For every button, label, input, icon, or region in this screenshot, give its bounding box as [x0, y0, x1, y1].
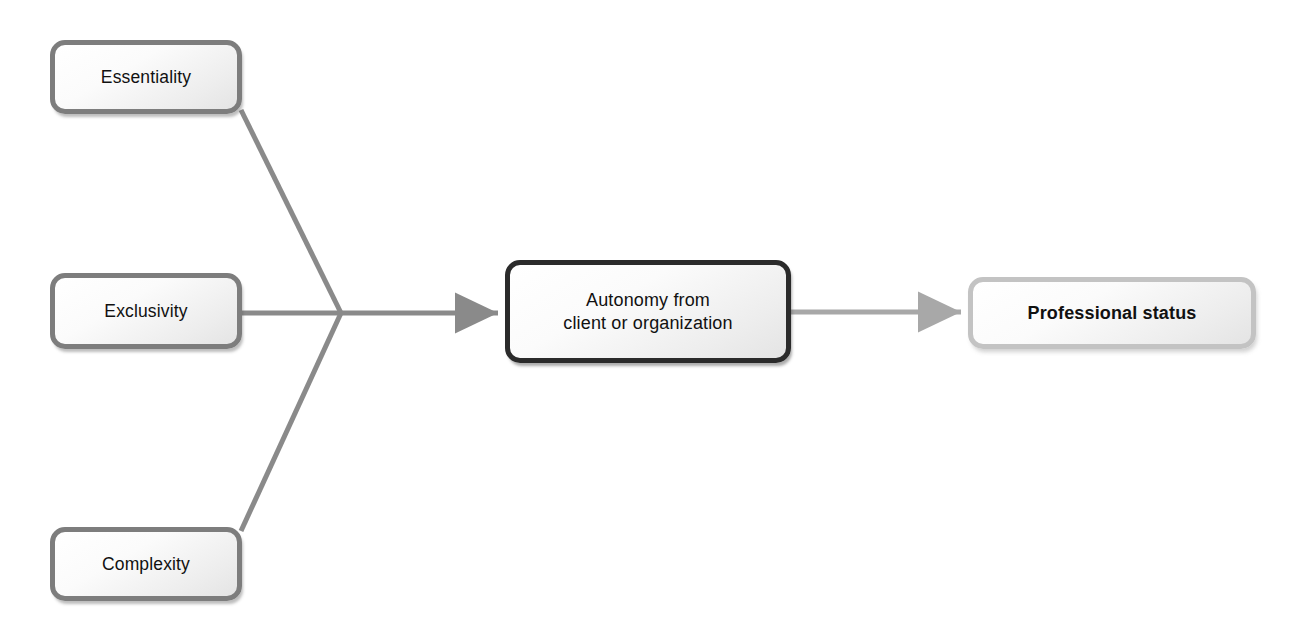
node-professional-status[interactable]: Professional status — [968, 277, 1256, 349]
node-professional-status-label: Professional status — [1020, 302, 1205, 324]
node-autonomy[interactable]: Autonomy from client or organization — [505, 260, 791, 363]
node-complexity[interactable]: Complexity — [50, 527, 242, 601]
node-essentiality-label: Essentiality — [93, 67, 199, 88]
node-exclusivity[interactable]: Exclusivity — [50, 273, 242, 349]
diagram-canvas: Essentiality Exclusivity Complexity Auto… — [0, 0, 1291, 632]
connector-essentiality-to-junction — [241, 110, 341, 313]
node-essentiality[interactable]: Essentiality — [50, 40, 242, 114]
node-complexity-label: Complexity — [94, 554, 198, 575]
connector-complexity-to-junction — [241, 313, 341, 531]
node-exclusivity-label: Exclusivity — [96, 301, 195, 322]
node-autonomy-label: Autonomy from client or organization — [555, 289, 740, 335]
